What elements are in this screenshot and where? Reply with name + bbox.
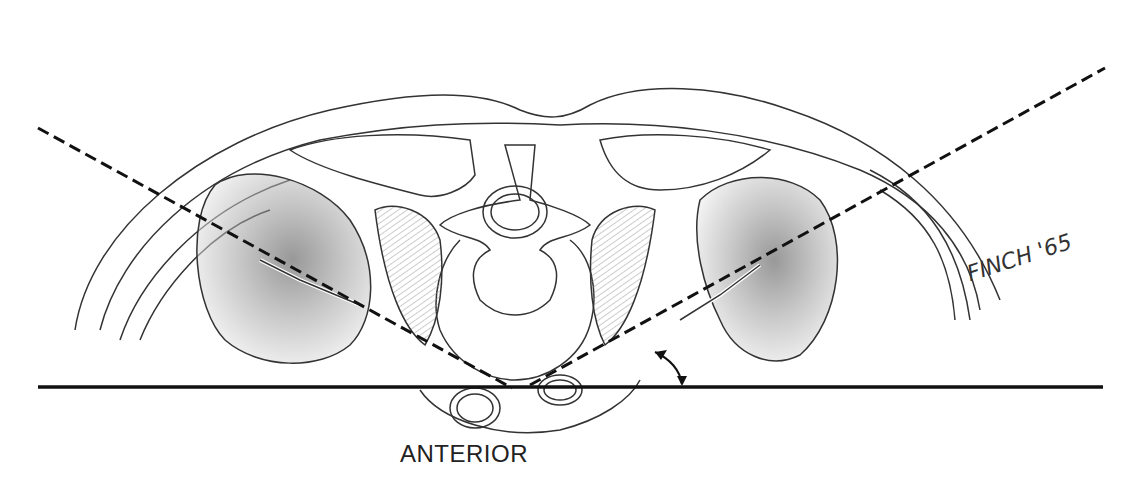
anterior-label: ANTERIOR	[400, 440, 528, 468]
anatomy-diagram: FINCH '65 ANTERIOR	[0, 0, 1133, 488]
right-kidney	[697, 178, 838, 361]
psoas-left	[375, 206, 442, 345]
psoas-right	[591, 206, 655, 345]
vertebral-body	[436, 240, 594, 380]
cross-section-drawing	[0, 0, 1133, 488]
back-muscle-left	[290, 135, 475, 197]
left-kidney	[197, 174, 371, 363]
